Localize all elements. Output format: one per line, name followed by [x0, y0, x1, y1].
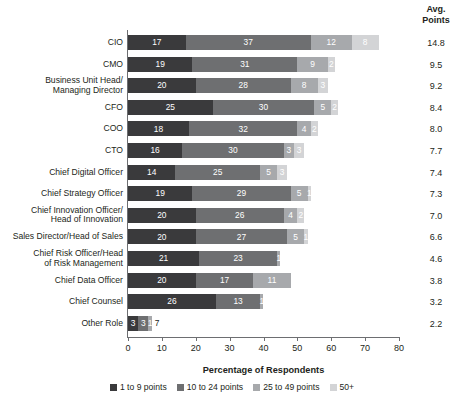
bar-segment: 1: [304, 229, 307, 244]
stacked-bar: 192951: [128, 186, 311, 201]
bar-segment: 5: [260, 165, 277, 180]
bar-segment: 8: [352, 35, 379, 50]
bar-segment-value: 19: [156, 189, 165, 197]
x-axis-tick-label: 50: [282, 343, 312, 353]
category-label: Chief Counsel: [0, 297, 123, 307]
bar-segment: 2: [331, 100, 338, 115]
bar-row: CFO2530528.4: [0, 98, 464, 119]
bar-segment: 29: [192, 186, 290, 201]
bar-segment-value: 19: [156, 60, 165, 68]
x-axis-tick-label: 30: [215, 343, 245, 353]
bar-segment-value: 1: [304, 233, 309, 241]
stacked-bar: 201711: [128, 273, 291, 288]
category-label: Chief Data Officer: [0, 276, 123, 286]
bar-segment: 12: [311, 35, 352, 50]
bar-segment: 20: [128, 78, 196, 93]
legend-item[interactable]: 1 to 9 points: [110, 382, 167, 392]
avg-points-value: 9.5: [410, 60, 462, 70]
x-axis-tick: [230, 337, 231, 341]
bar-segment: 31: [192, 57, 297, 72]
stacked-bar: 1737128: [128, 35, 379, 50]
legend-label: 50+: [340, 382, 355, 392]
stacked-bar: 193192: [128, 57, 335, 72]
bar-segment-value: 25: [166, 103, 175, 111]
bar-segment: 37: [186, 35, 311, 50]
x-axis-tick-label: 40: [249, 343, 279, 353]
bar-segment-value: 28: [239, 81, 248, 89]
bar-segment-value: 20: [157, 276, 166, 284]
stacked-bar: 183242: [128, 121, 318, 136]
bar-segment-value: 20: [157, 211, 166, 219]
bar-segment-value: 2: [329, 60, 334, 68]
bar-segment: 1: [308, 186, 311, 201]
bar-segment-value: 13: [233, 297, 242, 305]
bar-segment-value: 2: [332, 103, 337, 111]
bar-segment-value: 3: [131, 319, 136, 327]
bar-segment-value: 20: [157, 81, 166, 89]
bar-segment: 18: [128, 121, 189, 136]
avg-points-value: 3.2: [410, 297, 462, 307]
bar-segment: 13: [216, 294, 260, 309]
avg-points-header: Avg. Points: [410, 4, 462, 25]
bar-segment: 2: [297, 208, 304, 223]
bar-segment-value: 27: [237, 233, 246, 241]
bar-segment-value: 5: [320, 103, 325, 111]
stacked-bar: 202642: [128, 208, 304, 223]
stacked-bar: 163033: [128, 143, 304, 158]
bar-segment-value: 21: [159, 254, 168, 262]
avg-points-value: 7.4: [410, 168, 462, 178]
legend-item[interactable]: 10 to 24 points: [177, 382, 243, 392]
bar-segment-value: 32: [239, 125, 248, 133]
bar-segment-value: 5: [266, 168, 271, 176]
legend-label: 10 to 24 points: [187, 382, 243, 392]
bar-segment: 20: [128, 273, 196, 288]
bar-segment: 20: [128, 208, 196, 223]
bar-segment-value: 29: [237, 189, 246, 197]
bar-segment: 17: [128, 35, 186, 50]
category-label: Chief Digital Officer: [0, 168, 123, 178]
bar-segment: 1: [277, 251, 280, 266]
stacked-bar: 202751: [128, 229, 308, 244]
bar-segment-value: 23: [233, 254, 242, 262]
bar-segment-value: 12: [327, 38, 336, 46]
stacked-bar-chart: Avg. Points CIO173712814.8CMO1931929.5Bu…: [0, 0, 464, 410]
bar-row: Chief Risk Officer/Head of Risk Manageme…: [0, 249, 464, 270]
bar-segment-value: 3: [280, 168, 285, 176]
bar-segment-value: 11: [268, 276, 277, 284]
bar-row: Chief Counsel261313.2: [0, 292, 464, 313]
bar-segment: 4: [284, 208, 298, 223]
x-axis-tick: [399, 337, 400, 341]
x-axis-tick-label: 60: [316, 343, 346, 353]
bar-segment-value: 20: [157, 233, 166, 241]
bar-segment-value: 4: [288, 211, 293, 219]
bar-row: CIO173712814.8: [0, 33, 464, 54]
bar-segment: 26: [128, 294, 216, 309]
stacked-bar: 202883: [128, 78, 328, 93]
category-label: Business Unit Head/ Managing Director: [0, 76, 123, 95]
bar-segment: 25: [175, 165, 260, 180]
bar-segment-value: 18: [154, 125, 163, 133]
bar-segment: 19: [128, 57, 192, 72]
category-label: Chief Strategy Officer: [0, 189, 123, 199]
x-axis-tick: [365, 337, 366, 341]
bar-segment: 23: [199, 251, 277, 266]
bar-row: Sales Director/Head of Sales2027516.6: [0, 227, 464, 248]
legend-item[interactable]: 50+: [330, 382, 355, 392]
bar-segment-value: 3: [141, 319, 146, 327]
bar-segment: 5: [287, 229, 304, 244]
bar-row: CMO1931929.5: [0, 55, 464, 76]
legend-label: 25 to 49 points: [263, 382, 319, 392]
bar-segment: 21: [128, 251, 199, 266]
category-label: CFO: [0, 103, 123, 113]
category-label: Other Role: [0, 319, 123, 329]
x-axis-tick: [297, 337, 298, 341]
category-label: CMO: [0, 60, 123, 70]
bar-segment: 8: [291, 78, 318, 93]
bar-segment: 19: [128, 186, 192, 201]
stacked-bar: 142553: [128, 165, 287, 180]
category-label: COO: [0, 124, 123, 134]
legend-item[interactable]: 25 to 49 points: [253, 382, 319, 392]
bar-segment: 30: [182, 143, 284, 158]
category-label: CIO: [0, 38, 123, 48]
bar-segment-value: 9: [310, 60, 315, 68]
